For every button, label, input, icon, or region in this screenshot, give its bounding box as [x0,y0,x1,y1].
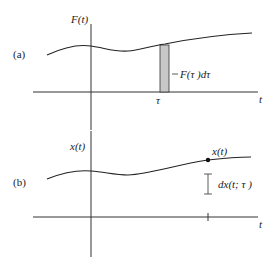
shaded-strip [160,45,169,92]
increment-label: dx(t; τ ) [218,178,252,191]
x-axis-label-b: t [259,218,263,230]
y-axis-label-b: x(t) [69,140,86,153]
curve-x [47,157,251,179]
panel-a: F(t) (a) t τ F(τ )dτ [13,13,263,130]
strip-label: F(τ )dτ [179,68,211,81]
tau-label: τ [156,94,161,106]
increment-bracket [204,174,212,194]
panel-label-a: (a) [13,48,26,61]
panel-b: x(t) (b) x(t) dx(t; τ ) t [13,131,263,257]
diagram: F(t) (a) t τ F(τ )dτ x(t) (b) x(t) dx(t;… [0,0,280,261]
panel-label-b: (b) [13,176,26,189]
point-marker [206,158,210,162]
y-axis-label-a: F(t) [70,13,88,26]
curve-f [47,33,252,55]
point-label: x(t) [211,145,228,158]
x-axis-label-a: t [259,93,263,105]
